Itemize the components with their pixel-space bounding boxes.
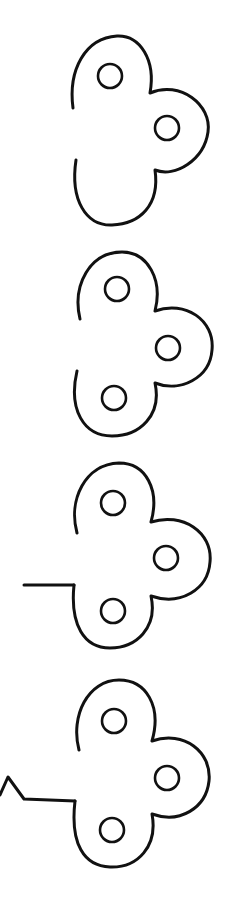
figure-2-hole-right (156, 336, 180, 360)
figure-1-outline (72, 36, 208, 225)
figure-3-hole-right (154, 546, 178, 570)
figure-3 (24, 463, 210, 648)
figure-2-outline (74, 252, 212, 436)
figure-4-outline (74, 680, 209, 867)
figure-2-hole-top (105, 277, 129, 301)
figure-1-hole-top (98, 64, 122, 88)
figure-3-hole-top (101, 491, 125, 515)
figure-4-zigzag-stem (0, 777, 75, 801)
figure-2 (74, 252, 212, 436)
figure-1 (72, 36, 208, 225)
figure-3-hole-bottom (101, 599, 125, 623)
figure-1-hole-right (155, 116, 179, 140)
figure-4-hole-right (155, 766, 179, 790)
figure-4-hole-top (102, 709, 126, 733)
diagram-canvas (0, 0, 228, 910)
figure-4-hole-bottom (100, 818, 124, 842)
figure-4 (0, 680, 209, 867)
figure-2-hole-bottom (102, 386, 126, 410)
figure-3-outline (73, 463, 210, 648)
